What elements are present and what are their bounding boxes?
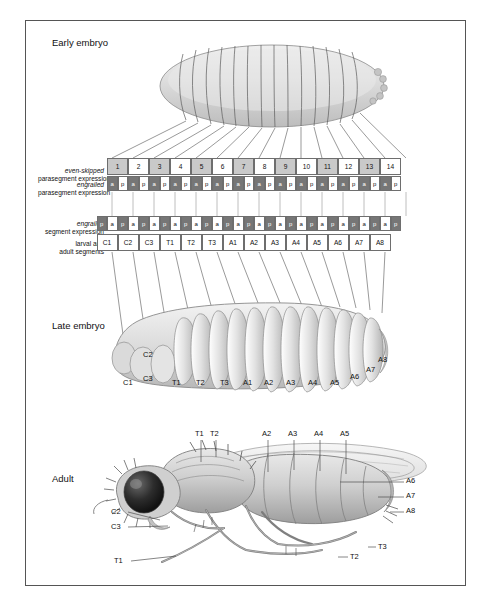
engrailed-parasegment-cell: p: [286, 176, 297, 191]
engrailed-parasegment-cell: a: [338, 176, 349, 191]
adult-top-label: A5: [340, 429, 349, 438]
engrailed-parasegment-cell: a: [380, 176, 391, 191]
adult-left-label: T1: [114, 556, 123, 565]
late-embryo-label: T3: [220, 378, 229, 387]
parasegment-cell: 1: [107, 158, 128, 175]
engrailed-segment-cell: a: [317, 216, 328, 231]
engrailed-segment-cell: a: [275, 216, 286, 231]
engrailed-segment-cell: a: [338, 216, 349, 231]
adult-top-label: T1: [195, 429, 204, 438]
segment-cell: A6: [328, 234, 349, 251]
late-embryo-label: T2: [196, 378, 205, 387]
late-embryo-label: C2: [143, 350, 153, 359]
engrailed-segment-cell: p: [202, 216, 213, 231]
late-embryo-label: T1: [172, 378, 181, 387]
early-embryo-illustration: [0, 0, 490, 609]
segment-cell: C2: [118, 234, 139, 251]
engrailed-segment-cell: p: [328, 216, 339, 231]
parasegment-cell: 9: [275, 158, 296, 175]
engrailed-segment-cell: p: [370, 216, 381, 231]
row-label-even-skipped: even-skipped parasegment expression: [38, 167, 104, 182]
engrailed-parasegment-cell: a: [149, 176, 160, 191]
late-embryo-label: C1: [123, 378, 133, 387]
adult-left-label: C3: [111, 522, 121, 531]
engrailed-segment-cell: p: [244, 216, 255, 231]
row-label-segments: larval and adult segments: [38, 240, 104, 255]
engrailed-parasegment-cell: a: [254, 176, 265, 191]
late-embryo-label: C3: [143, 374, 153, 383]
row-label-engrailed-seg-desc: segment expression: [45, 228, 104, 235]
adult-bottom-right-label: T3: [378, 542, 387, 551]
segment-cell: A7: [349, 234, 370, 251]
segment-cell: A1: [223, 234, 244, 251]
late-embryo-label: A4: [308, 378, 317, 387]
engrailed-segment-cell: a: [254, 216, 265, 231]
row-label-even-skipped-gene: even-skipped: [65, 167, 104, 174]
engrailed-parasegment-cell: p: [349, 176, 360, 191]
segment-cell: A8: [370, 234, 391, 251]
adult-top-label: T2: [210, 429, 219, 438]
adult-bottom-right-label: T2: [350, 552, 359, 561]
engrailed-parasegment-cell: p: [139, 176, 150, 191]
engrailed-segment-cell: p: [160, 216, 171, 231]
segment-cell: T1: [160, 234, 181, 251]
adult-left-label: C2: [111, 507, 121, 516]
late-embryo-label: A2: [264, 378, 273, 387]
segment-cell: C1: [97, 234, 118, 251]
parasegment-cell: 3: [149, 158, 170, 175]
parasegment-cell: 10: [296, 158, 317, 175]
engrailed-parasegment-cell: p: [223, 176, 234, 191]
late-embryo-label: A7: [366, 365, 375, 374]
parasegment-cell: 13: [359, 158, 380, 175]
engrailed-segment-cell: a: [359, 216, 370, 231]
engrailed-segment-cell: p: [181, 216, 192, 231]
engrailed-segment-cell: p: [307, 216, 318, 231]
segment-cell: T3: [202, 234, 223, 251]
parasegment-cell: 2: [128, 158, 149, 175]
engrailed-segment-cell: a: [380, 216, 391, 231]
parasegment-cell: 14: [380, 158, 401, 175]
engrailed-parasegment-cell: p: [202, 176, 213, 191]
engrailed-segment-cell: a: [128, 216, 139, 231]
engrailed-parasegment-cell: a: [191, 176, 202, 191]
row-label-engrailed-para-gene: engrailed: [77, 181, 104, 188]
engrailed-parasegment-cell: a: [170, 176, 181, 191]
engrailed-parasegment-cell: p: [181, 176, 192, 191]
engrailed-parasegment-cell: a: [275, 176, 286, 191]
engrailed-segment-cell: p: [223, 216, 234, 231]
engrailed-parasegment-cell: a: [212, 176, 223, 191]
engrailed-segment-cell: a: [107, 216, 118, 231]
engrailed-segment-cell: p: [139, 216, 150, 231]
engrailed-parasegment-cell: p: [160, 176, 171, 191]
parasegment-cell: 12: [338, 158, 359, 175]
engrailed-segment-cell: a: [191, 216, 202, 231]
engrailed-parasegment-cell: a: [359, 176, 370, 191]
adult-top-label: A4: [314, 429, 323, 438]
engrailed-segment-cell: p: [265, 216, 276, 231]
row-label-engrailed-parasegment: engrailed parasegment expression: [38, 181, 104, 196]
segment-cell: A2: [244, 234, 265, 251]
engrailed-segment-cell: p: [118, 216, 129, 231]
engrailed-parasegment-cell: a: [317, 176, 328, 191]
engrailed-segment-cell: p: [286, 216, 297, 231]
engrailed-parasegment-cell: a: [128, 176, 139, 191]
engrailed-segment-cell: p: [349, 216, 360, 231]
engrailed-parasegment-cell: p: [265, 176, 276, 191]
adult-right-label: A6: [406, 476, 415, 485]
engrailed-segment-cell: a: [212, 216, 223, 231]
segment-cell: C3: [139, 234, 160, 251]
engrailed-parasegment-cell: a: [296, 176, 307, 191]
late-embryo-label: A1: [243, 378, 252, 387]
engrailed-segment-cell: a: [233, 216, 244, 231]
parasegment-cell: 8: [254, 158, 275, 175]
engrailed-parasegment-cell: a: [233, 176, 244, 191]
engrailed-parasegment-cell: p: [118, 176, 129, 191]
adult-right-label: A7: [406, 491, 415, 500]
late-embryo-label: A6: [350, 372, 359, 381]
segment-cell: A4: [286, 234, 307, 251]
parasegment-cell: 5: [191, 158, 212, 175]
adult-top-label: A2: [262, 429, 271, 438]
late-embryo-label: A5: [330, 378, 339, 387]
parasegment-cell: 7: [233, 158, 254, 175]
segment-cell: A5: [307, 234, 328, 251]
